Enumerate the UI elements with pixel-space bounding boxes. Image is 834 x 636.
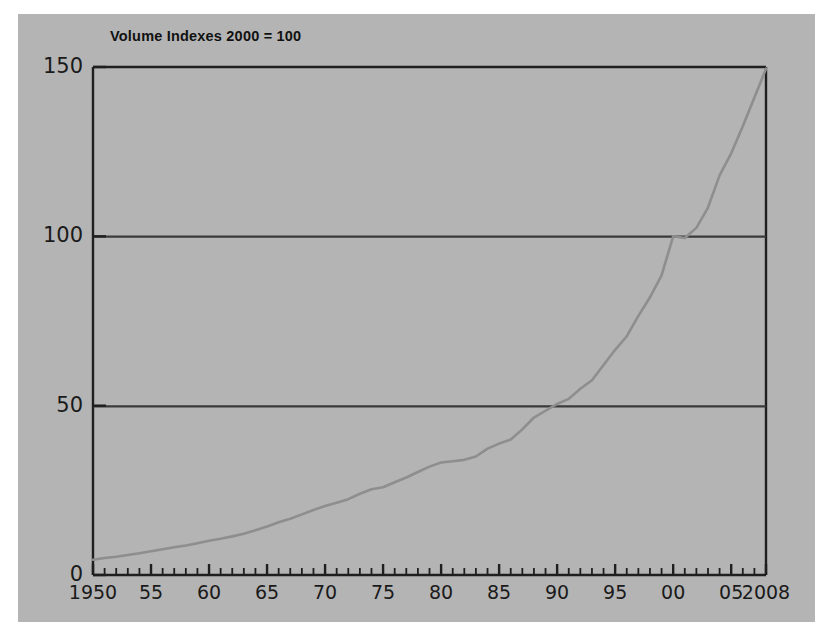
x-tick-label: 00 [655, 581, 691, 603]
x-tick-label: 1950 [63, 581, 123, 603]
y-tick-label: 50 [19, 393, 83, 417]
y-tick-label: 150 [19, 54, 83, 78]
x-tick-label: 65 [249, 581, 285, 603]
x-tick-label: 75 [365, 581, 401, 603]
data-series-line [93, 69, 766, 560]
x-tick-label: 2008 [736, 581, 796, 603]
chart-figure: Volume Indexes 2000 = 100 150100500 1950… [18, 14, 815, 622]
x-tick-label: 90 [539, 581, 575, 603]
y-axis-major-ticks [93, 67, 106, 575]
x-tick-label: 85 [481, 581, 517, 603]
x-tick-label: 60 [191, 581, 227, 603]
x-tick-label: 95 [597, 581, 633, 603]
x-tick-label: 70 [307, 581, 343, 603]
y-tick-label: 100 [19, 223, 83, 247]
x-axis-minor-ticks [93, 564, 766, 575]
axis-frame [93, 67, 766, 575]
x-tick-label: 80 [423, 581, 459, 603]
x-tick-label: 55 [133, 581, 169, 603]
plot-area [18, 14, 815, 622]
